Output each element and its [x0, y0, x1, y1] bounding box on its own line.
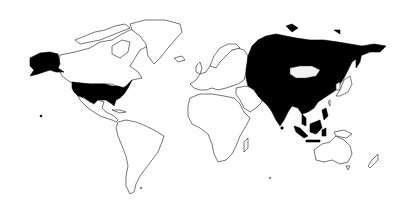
java: [306, 140, 320, 142]
borneo: [310, 120, 322, 134]
mongolia: [290, 66, 320, 78]
island-indian-ocean: [269, 177, 271, 179]
united-kingdom: [196, 62, 202, 74]
sumatra: [294, 126, 308, 138]
sri-lanka: [281, 127, 284, 130]
hawaii: [40, 115, 42, 117]
taiwan: [328, 100, 330, 106]
world-map: [0, 0, 411, 217]
novaya-zemlya: [286, 24, 298, 32]
tasmania: [346, 166, 350, 170]
madagascar: [244, 138, 248, 152]
sulawesi: [322, 128, 326, 136]
siberian-islands: [334, 30, 340, 34]
russia-central-asia-china: [246, 34, 386, 126]
island-south-atlantic: [140, 187, 142, 189]
malay-peninsula: [302, 114, 306, 126]
caribbean: [112, 110, 126, 113]
iceland: [174, 56, 185, 62]
africa: [188, 94, 250, 162]
south-america: [116, 120, 164, 194]
philippines: [322, 108, 328, 120]
new-zealand: [368, 154, 378, 168]
alaska: [30, 52, 64, 76]
